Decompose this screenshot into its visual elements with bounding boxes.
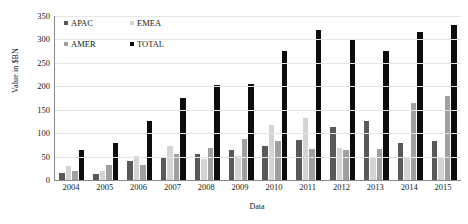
bar-emea-2007[interactable]: [167, 146, 173, 180]
x-axis-tick-2012: 2012: [325, 182, 359, 192]
x-axis-title: Data: [54, 202, 460, 211]
bar-amer-2013[interactable]: [377, 149, 383, 180]
bar-group-2009: [224, 16, 258, 180]
bar-emea-2015[interactable]: [438, 157, 444, 180]
x-axis-tick-2006: 2006: [122, 182, 156, 192]
y-axis-tick-350: 350: [37, 11, 50, 21]
legend-item-apac[interactable]: APAC: [64, 12, 130, 33]
bar-group-2015: [427, 16, 461, 180]
bar-apac-2006[interactable]: [127, 161, 133, 180]
bar-emea-2005[interactable]: [100, 171, 106, 180]
bar-apac-2009[interactable]: [229, 150, 235, 180]
bar-chart: Value in $BN 050100150200250300350 20042…: [0, 0, 468, 224]
bar-emea-2012[interactable]: [337, 148, 343, 180]
x-axis-tick-2011: 2011: [291, 182, 325, 192]
bar-amer-2004[interactable]: [72, 171, 78, 180]
bar-apac-2015[interactable]: [432, 141, 438, 180]
legend-item-amer[interactable]: AMER: [64, 33, 130, 54]
bar-apac-2012[interactable]: [330, 127, 336, 180]
legend-label: TOTAL: [137, 39, 164, 49]
bar-amer-2008[interactable]: [208, 148, 214, 180]
bar-group-2012: [326, 16, 360, 180]
bar-amer-2014[interactable]: [411, 103, 417, 180]
bar-group-2014: [393, 16, 427, 180]
x-axis-tick-2005: 2005: [88, 182, 122, 192]
bar-apac-2010[interactable]: [262, 146, 268, 180]
bar-emea-2014[interactable]: [404, 158, 410, 180]
bar-emea-2006[interactable]: [134, 156, 140, 180]
bar-total-2006[interactable]: [147, 121, 153, 181]
y-axis-tick-300: 300: [37, 34, 50, 44]
bar-total-2013[interactable]: [383, 51, 389, 180]
legend-swatch-icon-apac: [64, 21, 68, 25]
x-axis-tick-2015: 2015: [426, 182, 460, 192]
gridline: [55, 86, 461, 87]
legend-item-emea[interactable]: EMEA: [130, 12, 196, 33]
bar-apac-2005[interactable]: [93, 174, 99, 180]
bar-emea-2008[interactable]: [201, 159, 207, 180]
bar-emea-2011[interactable]: [303, 118, 309, 180]
x-axis-tick-2004: 2004: [54, 182, 88, 192]
bar-amer-2011[interactable]: [309, 149, 315, 180]
y-axis-tick-200: 200: [37, 81, 50, 91]
gridline: [55, 63, 461, 64]
bar-total-2014[interactable]: [417, 32, 423, 180]
bar-apac-2013[interactable]: [364, 121, 370, 180]
bar-apac-2014[interactable]: [398, 143, 404, 180]
bar-group-2010: [258, 16, 292, 180]
y-axis-tick-50: 50: [42, 152, 51, 162]
gridline: [55, 133, 461, 134]
y-axis-tick-150: 150: [37, 105, 50, 115]
legend-swatch-icon-amer: [64, 42, 68, 46]
y-axis-tick-labels: 050100150200250300350: [22, 0, 50, 224]
legend-item-total[interactable]: TOTAL: [130, 33, 196, 54]
legend-label: AMER: [71, 39, 96, 49]
bar-amer-2005[interactable]: [106, 165, 112, 180]
y-axis-tick-250: 250: [37, 58, 50, 68]
bar-total-2010[interactable]: [282, 51, 288, 180]
gridline: [55, 157, 461, 158]
legend-swatch-icon-emea: [130, 21, 134, 25]
x-axis-tick-2013: 2013: [358, 182, 392, 192]
gridline: [55, 110, 461, 111]
bar-group-2013: [359, 16, 393, 180]
x-axis-tick-2014: 2014: [392, 182, 426, 192]
bar-apac-2011[interactable]: [296, 140, 302, 180]
bar-amer-2009[interactable]: [242, 139, 248, 180]
y-axis-tick-0: 0: [46, 175, 50, 185]
bar-group-2011: [292, 16, 326, 180]
bar-total-2005[interactable]: [113, 143, 119, 180]
x-axis-tick-2010: 2010: [257, 182, 291, 192]
x-axis-tick-2008: 2008: [189, 182, 223, 192]
y-axis-tick-100: 100: [37, 128, 50, 138]
bar-amer-2010[interactable]: [275, 141, 281, 180]
legend-label: APAC: [71, 18, 93, 28]
bar-amer-2006[interactable]: [140, 165, 146, 180]
bar-amer-2015[interactable]: [445, 96, 451, 180]
bar-apac-2004[interactable]: [59, 173, 65, 180]
bar-total-2004[interactable]: [79, 150, 85, 180]
chart-legend: APACEMEAAMERTOTAL: [64, 12, 196, 54]
x-axis-tick-labels: 2004200520062007200820092010201120122013…: [54, 182, 460, 192]
bar-amer-2007[interactable]: [174, 154, 180, 180]
x-axis-tick-2007: 2007: [155, 182, 189, 192]
bar-emea-2004[interactable]: [66, 166, 72, 180]
bar-amer-2012[interactable]: [343, 150, 349, 180]
legend-label: EMEA: [137, 18, 161, 28]
bar-apac-2007[interactable]: [161, 158, 167, 180]
bar-apac-2008[interactable]: [195, 154, 201, 180]
y-axis-title: Value in $BN: [11, 23, 20, 119]
bar-emea-2009[interactable]: [235, 156, 241, 180]
x-axis-tick-2009: 2009: [223, 182, 257, 192]
legend-swatch-icon-total: [130, 42, 134, 46]
bar-emea-2013[interactable]: [370, 158, 376, 180]
